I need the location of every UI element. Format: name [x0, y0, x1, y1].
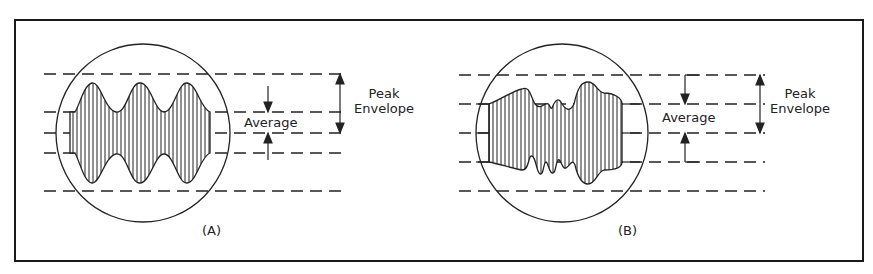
average-label-b: Average — [662, 110, 715, 125]
caption-a: (A) — [202, 223, 221, 238]
envelope-diagram — [0, 0, 873, 274]
peak-arrow-b — [756, 75, 764, 133]
caption-b: (B) — [618, 223, 637, 238]
envelope-label-a: Envelope — [348, 101, 420, 116]
envelope-label-b: Envelope — [764, 101, 836, 116]
peak-label-a: Peak — [348, 86, 420, 101]
envelope-a — [70, 83, 210, 183]
panel-a — [44, 44, 345, 222]
peak-envelope-label-a: Peak Envelope — [348, 86, 420, 116]
peak-label-b: Peak — [764, 86, 836, 101]
peak-envelope-label-b: Peak Envelope — [764, 86, 836, 116]
envelope-b — [489, 82, 622, 184]
peak-arrow-a — [336, 74, 344, 133]
average-label-a: Average — [244, 115, 297, 130]
panel-b — [459, 44, 765, 222]
